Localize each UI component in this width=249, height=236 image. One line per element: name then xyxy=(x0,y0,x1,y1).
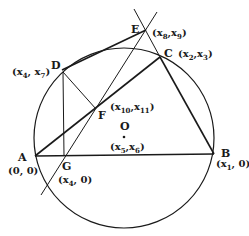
label-a: A xyxy=(17,151,27,164)
segment-bc xyxy=(160,57,214,154)
label-g-coord: (x4, 0) xyxy=(58,174,92,188)
label-d-coord: (x4, x7) xyxy=(12,66,50,80)
label-o: O xyxy=(120,120,130,133)
label-o-coord: (x5,x6) xyxy=(110,141,145,155)
label-c-coord: (x2,x3) xyxy=(178,48,213,62)
label-f: F xyxy=(98,109,106,122)
label-c: C xyxy=(164,47,173,60)
label-f-coord: (x10,x11) xyxy=(110,101,154,115)
label-b-coord: (x1, 0) xyxy=(216,158,249,172)
geometry-diagram: E (x8,x9) C (x2,x3) (x4, x7) D (x10,x11)… xyxy=(0,0,249,236)
segment-df xyxy=(63,72,96,109)
label-e: E xyxy=(131,23,139,36)
label-g: G xyxy=(62,160,71,173)
center-point-o xyxy=(123,136,126,139)
label-e-coord: (x8,x9) xyxy=(152,27,187,41)
label-a-coord: (0, 0) xyxy=(8,165,38,177)
label-d: D xyxy=(51,59,61,72)
segment-dg xyxy=(63,72,64,156)
